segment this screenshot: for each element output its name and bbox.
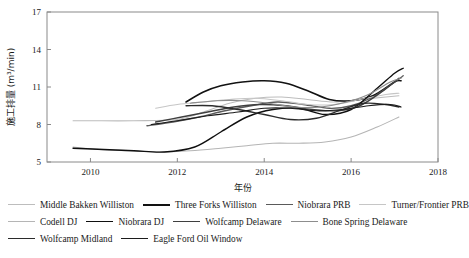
legend-label: Turner/Frontier PRB bbox=[391, 200, 468, 210]
legend-item-niobrara-prb[interactable]: Niobrara PRB bbox=[266, 200, 351, 210]
legend-row-2: Codell DJNiobrara DJWolfcamp DelawareBon… bbox=[0, 213, 465, 230]
y-axis-title: 施工排量 (m³/min) bbox=[5, 48, 16, 126]
legend-row-3: Wolfcamp MidlandEagle Ford Oil Window bbox=[0, 230, 465, 247]
legend-label: Eagle Ford Oil Window bbox=[153, 234, 242, 244]
legend-line-swatch bbox=[8, 238, 35, 239]
legend-line-swatch bbox=[8, 221, 35, 222]
chart-legend: Middle Bakken WillistonThree Forks Willi… bbox=[0, 196, 465, 258]
legend-label: Three Forks Williston bbox=[175, 200, 257, 210]
x-tick-label-2018: 2018 bbox=[429, 167, 448, 177]
legend-line-swatch bbox=[8, 204, 35, 205]
legend-label: Middle Bakken Williston bbox=[40, 200, 134, 210]
legend-item-wolfcamp-delaware[interactable]: Wolfcamp Delaware bbox=[173, 217, 281, 227]
legend-line-swatch bbox=[266, 204, 293, 205]
x-tick-label-2014: 2014 bbox=[255, 167, 274, 177]
y-tick-label-5: 5 bbox=[37, 157, 42, 167]
series-line-niobrara-dj bbox=[73, 68, 403, 152]
legend-row-1: Middle Bakken WillistonThree Forks Willi… bbox=[0, 196, 465, 213]
legend-item-middle-bakken-williston[interactable]: Middle Bakken Williston bbox=[8, 200, 134, 210]
legend-item-wolfcamp-midland[interactable]: Wolfcamp Midland bbox=[8, 234, 112, 244]
legend-label: Bone Spring Delaware bbox=[323, 217, 408, 227]
legend-item-codell-dj[interactable]: Codell DJ bbox=[8, 217, 77, 227]
y-tick-label-8: 8 bbox=[37, 120, 42, 130]
x-tick-label-2016: 2016 bbox=[342, 167, 361, 177]
series-line-eagle-ford-oil-window bbox=[151, 104, 401, 124]
y-tick-label-11: 11 bbox=[32, 82, 41, 92]
chart-plot-area: 5811141720102012201420162018年份施工排量 (m³/m… bbox=[0, 0, 465, 195]
legend-label: Wolfcamp Midland bbox=[40, 234, 112, 244]
legend-line-swatch bbox=[86, 221, 113, 222]
legend-line-swatch bbox=[359, 204, 386, 205]
legend-item-niobrara-dj[interactable]: Niobrara DJ bbox=[86, 217, 164, 227]
x-tick-label-2010: 2010 bbox=[81, 167, 100, 177]
legend-item-three-forks-williston[interactable]: Three Forks Williston bbox=[143, 200, 257, 210]
legend-line-swatch bbox=[291, 221, 318, 222]
line-chart: 5811141720102012201420162018年份施工排量 (m³/m… bbox=[0, 0, 465, 195]
legend-label: Codell DJ bbox=[40, 217, 77, 227]
legend-item-turner-frontier-prb[interactable]: Turner/Frontier PRB bbox=[359, 200, 468, 210]
legend-label: Niobrara DJ bbox=[118, 217, 164, 227]
legend-label: Wolfcamp Delaware bbox=[205, 217, 281, 227]
y-tick-label-14: 14 bbox=[32, 45, 42, 55]
y-tick-label-17: 17 bbox=[32, 7, 42, 17]
legend-line-swatch bbox=[173, 221, 200, 222]
legend-line-swatch bbox=[143, 204, 170, 206]
legend-item-eagle-ford-oil-window[interactable]: Eagle Ford Oil Window bbox=[121, 234, 242, 244]
x-axis-title: 年份 bbox=[234, 182, 252, 193]
legend-label: Niobrara PRB bbox=[298, 200, 351, 210]
legend-line-swatch bbox=[121, 238, 148, 239]
legend-item-bone-spring-delaware[interactable]: Bone Spring Delaware bbox=[291, 217, 408, 227]
x-tick-label-2012: 2012 bbox=[168, 167, 186, 177]
